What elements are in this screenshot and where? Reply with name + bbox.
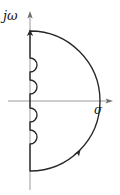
contour-drawing bbox=[0, 0, 120, 195]
real-axis-label: σ bbox=[94, 104, 102, 116]
direction-markers bbox=[27, 30, 81, 157]
imaginary-axis-label: jω bbox=[3, 9, 18, 22]
nyquist-contour-figure: jω σ bbox=[0, 0, 120, 195]
